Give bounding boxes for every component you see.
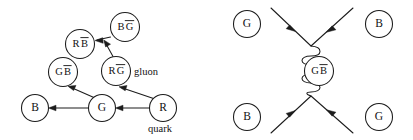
node-R-Gbar-label: R <box>108 65 115 76</box>
node-R-label: R <box>159 101 167 113</box>
node-B-Gbar-bar-letter: G <box>126 21 134 32</box>
figure-root: R G B R G G B <box>0 0 413 140</box>
node-G-label: G <box>98 101 106 113</box>
edge-g-to-b <box>49 105 89 111</box>
gluon-label: gluon <box>134 66 159 77</box>
node-G[interactable]: G <box>89 95 116 122</box>
node-R-Bbar-bar-letter: B <box>81 38 88 49</box>
node-center-G-Bbar[interactable]: G B <box>305 57 334 86</box>
edge-r-to-rg <box>119 86 155 100</box>
node-B-Gbar[interactable]: B G <box>111 13 140 42</box>
node-R-Gbar-bar-letter: G <box>117 65 125 76</box>
left-diagram-panel: R G B R G G B <box>0 0 207 140</box>
node-center-G-Bbar-bar-letter: B <box>320 65 327 76</box>
edge-bg-to-rb <box>95 37 111 43</box>
node-top-right-B[interactable]: B <box>366 11 393 38</box>
node-R-Bbar-label: R <box>72 38 79 49</box>
quark-label: quark <box>148 123 173 134</box>
node-B[interactable]: B <box>22 95 49 122</box>
node-B-Gbar-label: B <box>117 21 124 32</box>
node-G-Bbar[interactable]: G B <box>49 58 78 87</box>
node-R-Bbar[interactable]: R B <box>66 30 95 59</box>
leg-top-right <box>311 8 353 46</box>
node-G-Bbar-label: G <box>55 66 63 77</box>
node-bottom-right-G-label: G <box>375 110 383 122</box>
edge-r-to-g <box>116 105 150 111</box>
node-G-Bbar-bar-letter: B <box>64 66 71 77</box>
node-B-label: B <box>31 101 39 113</box>
node-R[interactable]: R <box>150 95 177 122</box>
gluon-exchange-feynman-canvas: G B B G G B <box>207 0 413 140</box>
node-bottom-left-B[interactable]: B <box>234 104 261 131</box>
node-top-left-G-label: G <box>243 17 251 29</box>
node-center-G-Bbar-label: G <box>311 65 319 76</box>
node-R-Gbar[interactable]: R G <box>102 57 131 86</box>
node-top-left-G[interactable]: G <box>234 11 261 38</box>
leg-bottom-right <box>311 96 353 133</box>
leg-top-left <box>271 8 311 46</box>
node-bottom-left-B-label: B <box>243 110 251 122</box>
leg-bottom-left <box>271 96 311 133</box>
right-diagram-panel: G B B G G B <box>207 0 413 140</box>
edge-g-to-gb <box>68 85 95 98</box>
node-top-right-B-label: B <box>375 17 383 29</box>
colour-flow-tree-canvas: R G B R G G B <box>0 0 207 140</box>
edge-rg-to-bg <box>104 40 113 57</box>
node-bottom-right-G[interactable]: G <box>366 104 393 131</box>
